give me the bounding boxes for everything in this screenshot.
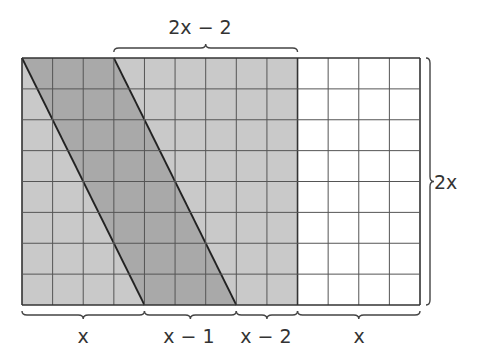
bottom-label-3: x − 2 <box>240 325 291 347</box>
area-model-diagram: 2x − 2 2x x x − 1 x − 2 x <box>0 0 481 364</box>
bottom-label-1: x <box>77 325 88 347</box>
top-label: 2x − 2 <box>168 16 231 38</box>
bottom-label-2: x − 1 <box>163 325 214 347</box>
right-label: 2x <box>434 171 457 193</box>
bottom-label-4: x <box>353 325 364 347</box>
